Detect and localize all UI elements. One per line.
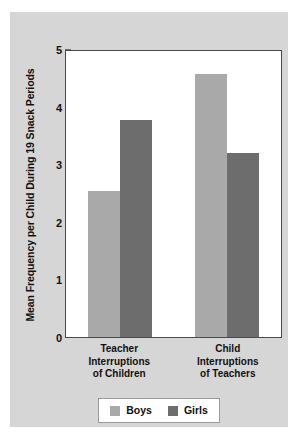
y-axis-title: Mean Frequency per Child During 19 Snack…	[22, 50, 38, 340]
y-axis-tick-label: 0	[44, 333, 62, 344]
x-axis-category-label-1: ChildInterruptionsof Teachers	[174, 343, 283, 393]
bar-girls-0	[120, 120, 152, 337]
y-axis-tick-label: 3	[44, 160, 62, 171]
bars-layer	[66, 51, 281, 337]
legend-swatch-icon	[110, 406, 120, 416]
legend-label: Girls	[184, 405, 208, 416]
y-axis-tick-label: 5	[44, 45, 62, 56]
category-label-line: Interruptions	[174, 356, 283, 369]
legend-entry-girls[interactable]: Girls	[168, 405, 208, 416]
y-axis-tick-label: 4	[44, 102, 62, 113]
y-axis-tick-label: 1	[44, 275, 62, 286]
legend-label: Boys	[126, 405, 152, 416]
x-axis-category-labels: TeacherInterruptionsof ChildrenChildInte…	[65, 343, 282, 393]
x-axis-category-label-0: TeacherInterruptionsof Children	[65, 343, 174, 393]
legend-swatch-icon	[168, 406, 178, 416]
figure-panel: Mean Frequency per Child During 19 Snack…	[10, 12, 288, 427]
bar-boys-0	[88, 191, 120, 337]
category-label-line: of Teachers	[174, 368, 283, 381]
category-label-line: Child	[174, 343, 283, 356]
category-label-line: of Children	[65, 368, 174, 381]
category-label-line: Interruptions	[65, 356, 174, 369]
category-label-line: Teacher	[65, 343, 174, 356]
y-axis-tick-labels: 012345	[40, 50, 62, 338]
bar-boys-1	[195, 74, 227, 337]
legend-entry-boys[interactable]: Boys	[110, 405, 152, 416]
y-axis-tick-label: 2	[44, 217, 62, 228]
chart-legend: BoysGirls	[98, 398, 220, 423]
bar-girls-1	[227, 153, 259, 337]
